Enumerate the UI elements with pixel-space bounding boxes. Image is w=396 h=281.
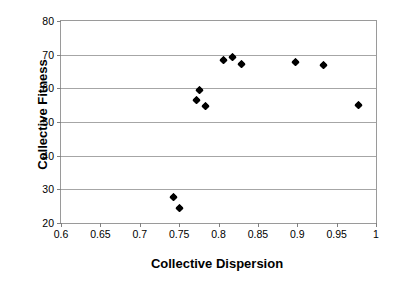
gridline-horizontal [61,189,376,190]
x-axis-tick-label: 1 [353,229,396,240]
data-point [238,60,245,67]
gridline-horizontal [61,55,376,56]
x-axis-tick [100,223,101,227]
x-axis-title: Collective Dispersion [58,256,376,271]
y-axis-tick-label: 60 [14,83,54,93]
y-axis-tick [57,55,61,56]
gridline-horizontal [61,156,376,157]
y-axis-tick [57,21,61,22]
y-axis-tick-label: 80 [14,16,54,26]
y-axis-tick-label: 20 [14,218,54,228]
scatter-chart-figure: Collective Fitness 203040506070800.60.65… [0,0,396,281]
gridline-horizontal [61,122,376,123]
data-point [320,61,327,68]
x-axis-tick [140,223,141,227]
gridline-horizontal [61,88,376,89]
plot-area: 203040506070800.60.650.70.750.80.850.90.… [60,20,377,224]
y-axis-tick-label: 30 [14,184,54,194]
x-axis-tick [179,223,180,227]
data-point [202,102,209,109]
x-axis-tick [297,223,298,227]
y-axis-tick [57,156,61,157]
data-point [176,204,183,211]
y-axis-tick [57,88,61,89]
data-point [170,193,177,200]
x-axis-tick [337,223,338,227]
data-point [193,96,200,103]
y-axis-tick-label: 70 [14,50,54,60]
y-axis-tick-label: 50 [14,117,54,127]
data-point [220,55,227,62]
y-axis-tick [57,189,61,190]
y-axis-tick-label: 40 [14,151,54,161]
data-point [196,85,203,92]
x-axis-tick [376,223,377,227]
x-axis-tick [219,223,220,227]
x-axis-tick [258,223,259,227]
data-point [292,58,299,65]
data-point [229,52,236,59]
x-axis-tick [61,223,62,227]
y-axis-tick [57,122,61,123]
data-point [355,101,362,108]
